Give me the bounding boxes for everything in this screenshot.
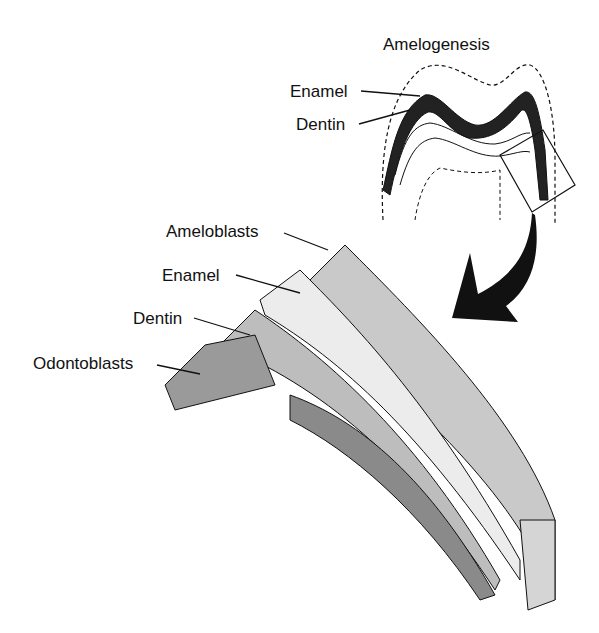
label-ameloblasts: Ameloblasts — [166, 222, 259, 241]
tooth-outer-outline — [382, 65, 555, 225]
enamel-band — [383, 92, 548, 200]
section-end-face — [520, 520, 555, 610]
odontoblast-layer-left — [165, 335, 275, 410]
inset-label-enamel: Enamel — [290, 82, 348, 101]
label-dentin: Dentin — [133, 309, 182, 328]
amelogenesis-diagram: Amelogenesis Enamel Dentin — [0, 0, 599, 633]
pulp-outline — [415, 168, 500, 220]
label-odontoblasts: Odontoblasts — [33, 354, 133, 373]
label-enamel: Enamel — [162, 266, 220, 285]
tooth-inset: Enamel Dentin — [290, 65, 575, 225]
pulp-line — [400, 138, 530, 185]
curved-arrow-icon — [452, 213, 537, 322]
inset-label-dentin: Dentin — [296, 115, 345, 134]
diagram-title: Amelogenesis — [383, 35, 490, 54]
